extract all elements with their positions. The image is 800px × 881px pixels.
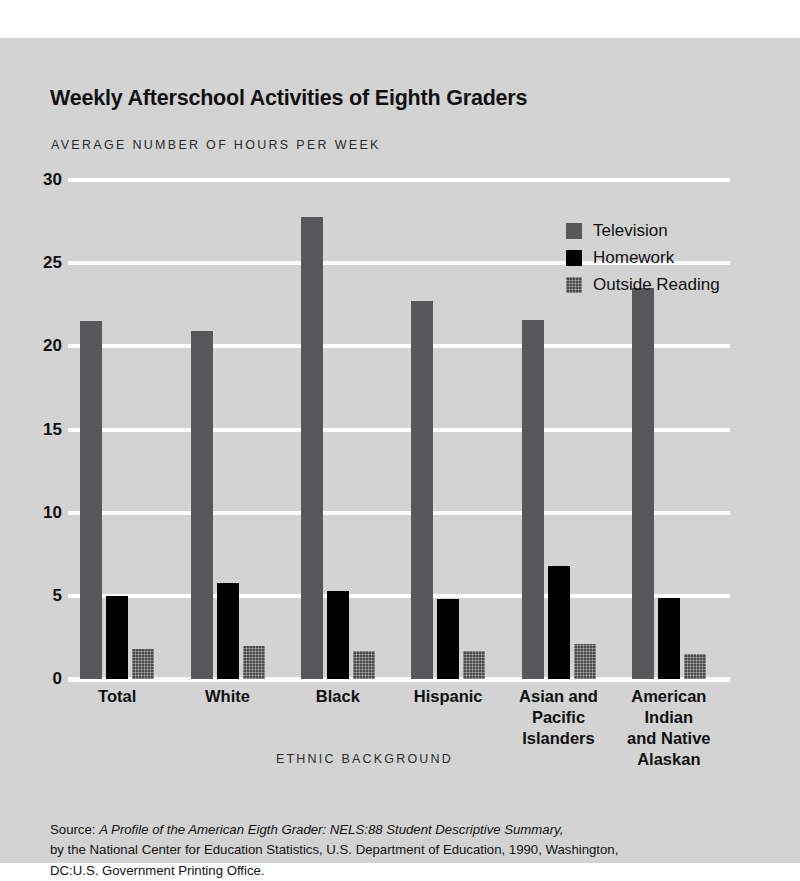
bar (191, 331, 213, 679)
bar (411, 301, 433, 679)
x-axis-title: ETHNIC BACKGROUND (276, 752, 453, 766)
bar (548, 566, 570, 679)
legend-item: Television (566, 220, 720, 241)
y-axis-tick-labels: 051015202530 (14, 180, 62, 679)
x-category-label-line: Asian and (503, 686, 613, 707)
x-category-label: Hispanic (393, 686, 503, 707)
y-tick-label-25: 25 (18, 253, 62, 273)
x-category-label-line: Black (283, 686, 393, 707)
legend-item: Outside Reading (566, 274, 720, 295)
scanned-page-top-margin (0, 0, 800, 38)
chart-figure-panel: Weekly Afterschool Activities of Eighth … (0, 38, 800, 863)
bar (301, 217, 323, 679)
bar (632, 288, 654, 679)
y-tick-label-10: 10 (18, 503, 62, 523)
legend-swatch-icon (566, 223, 582, 239)
bar-group (191, 180, 265, 679)
bar (574, 644, 596, 679)
x-category-label: Total (62, 686, 172, 707)
x-category-label-line: and Native (614, 728, 724, 749)
bar (327, 591, 349, 679)
y-tick-label-30: 30 (18, 170, 62, 190)
y-axis-title: AVERAGE NUMBER OF HOURS PER WEEK (51, 138, 381, 152)
y-tick-label-15: 15 (18, 420, 62, 440)
source-note-line-1: Source: A Profile of the American Eigth … (50, 820, 750, 840)
legend-label: Homework (593, 248, 674, 268)
x-category-label: Asian andPacificIslanders (503, 686, 613, 749)
bar (353, 651, 375, 679)
x-category-label-line: Pacific (503, 707, 613, 728)
x-category-label-line: Total (62, 686, 172, 707)
x-category-label: AmericanIndianand NativeAlaskan (614, 686, 724, 770)
bar (106, 596, 128, 679)
chart-legend: TelevisionHomeworkOutside Reading (566, 220, 720, 301)
x-category-label: White (172, 686, 282, 707)
bar (658, 598, 680, 680)
legend-swatch-icon (566, 250, 582, 266)
y-tick-label-0: 0 (18, 669, 62, 689)
x-category-label-line: Islanders (503, 728, 613, 749)
bar (217, 583, 239, 679)
source-note-title: A Profile of the American Eigth Grader: … (99, 822, 563, 837)
bar (522, 320, 544, 679)
x-category-label-line: Hispanic (393, 686, 503, 707)
x-category-label-line: White (172, 686, 282, 707)
y-tick-label-5: 5 (18, 586, 62, 606)
bar (684, 654, 706, 679)
y-tick-label-20: 20 (18, 336, 62, 356)
x-category-label: Black (283, 686, 393, 707)
bar (463, 651, 485, 679)
bar-group (80, 180, 154, 679)
source-note: Source: A Profile of the American Eigth … (50, 820, 750, 881)
source-note-prefix: Source: (50, 822, 99, 837)
x-category-label-line: American (614, 686, 724, 707)
legend-swatch-icon (566, 277, 582, 293)
legend-item: Homework (566, 247, 720, 268)
bar (437, 599, 459, 679)
chart-title: Weekly Afterschool Activities of Eighth … (50, 86, 527, 111)
bar (80, 321, 102, 679)
x-category-label-line: Alaskan (614, 749, 724, 770)
x-category-label-line: Indian (614, 707, 724, 728)
bar-group (411, 180, 485, 679)
x-axis-category-labels: TotalWhiteBlackHispanicAsian andPacificI… (68, 686, 730, 796)
bar (243, 646, 265, 679)
legend-label: Outside Reading (593, 275, 720, 295)
legend-label: Television (593, 221, 668, 241)
source-note-line-2: by the National Center for Education Sta… (50, 840, 750, 860)
source-note-line-3: DC:U.S. Government Printing Office. (50, 861, 750, 881)
bar (132, 649, 154, 679)
bar-group (301, 180, 375, 679)
